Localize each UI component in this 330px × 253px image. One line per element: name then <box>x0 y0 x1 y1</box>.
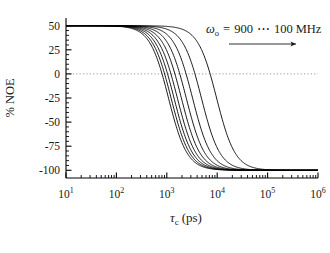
ellipsis-glyph: ⋯ <box>257 22 270 36</box>
y-tick-label: 50 <box>49 20 61 32</box>
equals-sign: = <box>223 22 230 36</box>
high-frequency-value: 900 <box>234 22 253 36</box>
omega-subscript: o <box>215 28 219 38</box>
y-tick-label: 0 <box>54 68 60 80</box>
low-frequency-value: 100 <box>274 22 293 36</box>
y-tick-label: -75 <box>45 140 61 152</box>
frequency-units: MHz <box>296 22 322 36</box>
y-tick-label: -25 <box>45 92 61 104</box>
tau-units: (ps) <box>182 210 202 225</box>
noe-vs-correlation-time-figure: 50250-25-50-75-100 101102103104105106 % … <box>0 0 330 253</box>
tau-subscript: c <box>175 217 179 227</box>
y-axis-title-text: % NOE <box>3 78 17 118</box>
y-tick-label: -50 <box>45 116 61 128</box>
y-axis-title: % NOE <box>3 78 17 118</box>
omega-symbol: ω <box>206 22 215 36</box>
y-tick-label: 25 <box>49 44 61 56</box>
chart-canvas: 50250-25-50-75-100 101102103104105106 % … <box>0 0 330 253</box>
frequency-annotation-text: ωo=900⋯100MHz <box>206 22 322 38</box>
y-tick-label: -100 <box>39 164 60 176</box>
